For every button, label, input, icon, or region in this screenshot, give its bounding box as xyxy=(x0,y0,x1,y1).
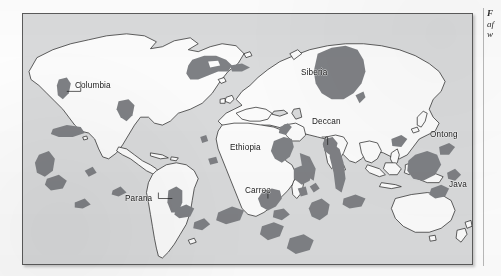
map-label-ethiopia: Ethiopia xyxy=(230,144,261,152)
map-label-deccan: Deccan xyxy=(312,118,341,126)
caption-line-2: af xyxy=(487,19,501,30)
scanned-page: Columbia Siberia Deccan Ethiopia Carroo … xyxy=(0,0,501,276)
map-label-java: Java xyxy=(449,181,467,189)
map-label-carroo: Carroo xyxy=(245,187,271,195)
caption-line-3: w xyxy=(487,29,501,40)
caption-column-rule xyxy=(483,8,484,266)
map-frame: Columbia Siberia Deccan Ethiopia Carroo … xyxy=(22,13,473,265)
map-label-columbia: Columbia xyxy=(75,82,111,90)
figure-world-map: Columbia Siberia Deccan Ethiopia Carroo … xyxy=(22,13,473,265)
island-caribbean-2 xyxy=(170,157,178,161)
island-tasmania xyxy=(429,235,436,241)
island-ireland xyxy=(220,98,225,103)
map-label-siberia: Siberia xyxy=(301,69,328,77)
map-label-ontong: Ontong xyxy=(430,131,458,139)
map-label-parana: Parana xyxy=(125,195,152,203)
caption-line-1: F xyxy=(487,8,501,19)
island-hawaii xyxy=(83,136,88,140)
world-map-graphic xyxy=(23,14,472,264)
figure-caption: F af w xyxy=(487,8,501,40)
